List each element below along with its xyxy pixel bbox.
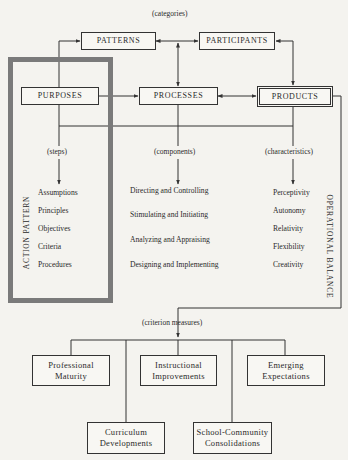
criterion-box-school-community-consolidations: School-Community Consolidations bbox=[193, 422, 272, 454]
criterion-line2: Maturity bbox=[55, 371, 87, 382]
criterion-measures-label: (criterion measures) bbox=[142, 318, 202, 327]
products-box: PRODUCTS bbox=[257, 86, 333, 107]
criterion-line1: Emerging bbox=[268, 360, 304, 371]
characteristic-item: Creativity bbox=[273, 260, 303, 269]
criterion-line2: Expectations bbox=[262, 371, 310, 382]
component-item: Directing and Controlling bbox=[130, 186, 208, 195]
component-item: Designing and Implementing bbox=[130, 260, 219, 269]
step-item: Procedures bbox=[38, 260, 72, 269]
criterion-line2: Consolidations bbox=[205, 438, 260, 449]
purposes-box: PURPOSES bbox=[21, 87, 99, 105]
criterion-line1: School-Community bbox=[197, 427, 269, 438]
criterion-line1: Professional bbox=[48, 360, 94, 371]
characteristic-item: Relativity bbox=[273, 224, 303, 233]
criterion-box-instructional-improvements: Instructional Improvements bbox=[140, 355, 217, 386]
criterion-line2: Developments bbox=[100, 438, 153, 449]
action-pattern-label: ACTION PATTERN bbox=[22, 183, 31, 283]
characteristics-label: (characteristics) bbox=[265, 147, 313, 156]
criterion-line1: Instructional bbox=[155, 360, 202, 371]
characteristic-item: Autonomy bbox=[273, 206, 306, 215]
component-item: Analyzing and Appraising bbox=[130, 235, 210, 244]
criterion-box-professional-maturity: Professional Maturity bbox=[32, 355, 110, 386]
step-item: Objectives bbox=[38, 224, 70, 233]
components-label: (components) bbox=[154, 147, 195, 156]
step-item: Principles bbox=[38, 206, 68, 215]
component-item: Stimulating and Initiating bbox=[130, 210, 208, 219]
characteristic-item: Flexibility bbox=[273, 242, 305, 251]
patterns-box: PATTERNS bbox=[81, 32, 156, 50]
criterion-line2: Improvements bbox=[152, 371, 205, 382]
criterion-line1: Curriculum bbox=[105, 427, 147, 438]
step-item: Criteria bbox=[38, 242, 61, 251]
step-item: Assumptions bbox=[38, 188, 78, 197]
characteristic-item: Perceptivity bbox=[273, 188, 310, 197]
criterion-box-emerging-expectations: Emerging Expectations bbox=[247, 355, 325, 386]
participants-box: PARTICIPANTS bbox=[199, 32, 275, 50]
categories-label: (categories) bbox=[152, 9, 187, 18]
steps-label: (steps) bbox=[47, 147, 67, 156]
criterion-box-curriculum-developments: Curriculum Developments bbox=[87, 422, 165, 454]
processes-box: PROCESSES bbox=[139, 87, 218, 105]
operational-balance-label: OPERATIONAL BALANCE bbox=[325, 177, 334, 317]
